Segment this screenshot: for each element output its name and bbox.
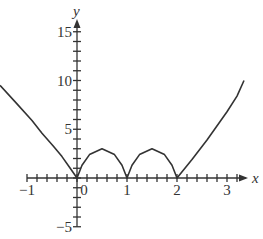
x-tick-label: −1 [19, 182, 35, 198]
y-axis-label: y [71, 3, 80, 19]
ticks [27, 32, 237, 227]
x-axis-arrow-icon [239, 175, 248, 182]
y-tick-label: −5 [56, 219, 72, 235]
x-tick-label: 3 [223, 182, 231, 198]
y-tick-label: 15 [57, 24, 72, 40]
function-graph: −10123−551015 x y [0, 0, 263, 239]
axes [27, 19, 248, 227]
y-tick-label: 5 [65, 121, 73, 137]
function-curve [0, 81, 244, 179]
y-axis-arrow-icon [74, 19, 81, 28]
x-tick-label: 0 [80, 182, 88, 198]
y-tick-label: 10 [57, 73, 72, 89]
tick-labels: −10123−551015 [19, 24, 231, 235]
x-axis-label: x [251, 170, 259, 186]
x-tick-label: 2 [173, 182, 181, 198]
x-tick-label: 1 [123, 182, 131, 198]
